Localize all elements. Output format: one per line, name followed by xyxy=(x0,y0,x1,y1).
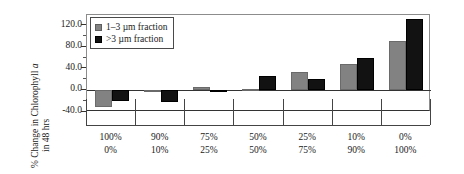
x-axis-separator xyxy=(184,99,185,125)
x-axis-separator xyxy=(135,99,136,125)
x-axis-label-top: 90% xyxy=(135,131,184,144)
x-axis-label-bottom: 25% xyxy=(184,144,233,157)
y-axis-tick-label: -40.0 xyxy=(34,106,82,116)
x-axis-group-label: 50%50% xyxy=(233,131,282,157)
y-axis-tick-label: 120.0 xyxy=(34,20,82,30)
bar xyxy=(308,79,325,90)
x-axis-group-label: 75%25% xyxy=(184,131,233,157)
x-axis-label-top: 50% xyxy=(233,131,282,144)
x-axis-label-top: 75% xyxy=(184,131,233,144)
x-axis-separator xyxy=(283,99,284,125)
legend-item-gt3um: >3 µm fraction xyxy=(95,33,167,45)
x-axis-label-top: 25% xyxy=(283,131,332,144)
legend-swatch-icon-gt3um xyxy=(95,36,102,43)
chart-figure: % Change in Chlorophyll a in 48 hrs -40.… xyxy=(0,0,464,174)
legend-label-gt3um: >3 µm fraction xyxy=(106,33,163,45)
y-axis-tick-label: 0.0 xyxy=(34,84,82,94)
y-axis-tick-label: 80.0 xyxy=(34,41,82,51)
y-axis-title-line1: % Change in Chlorophyll xyxy=(30,68,40,168)
x-axis-separator xyxy=(233,99,234,125)
bar xyxy=(340,64,357,91)
x-axis-label-bottom: 75% xyxy=(283,144,332,157)
x-axis-label-bottom: 90% xyxy=(332,144,381,157)
legend-label-1-3um: 1–3 µm fraction xyxy=(106,21,167,33)
bar xyxy=(259,76,276,91)
bar xyxy=(144,90,161,92)
x-axis-label-top: 10% xyxy=(332,131,381,144)
x-axis-label-top: 0% xyxy=(381,131,430,144)
legend-item-1-3um: 1–3 µm fraction xyxy=(95,21,167,33)
bar xyxy=(406,19,423,91)
bar xyxy=(389,41,406,91)
bar xyxy=(291,72,308,91)
x-axis-label-bottom: 0% xyxy=(86,144,135,157)
x-axis-separator xyxy=(86,99,87,125)
legend-swatch-icon-1-3um xyxy=(95,24,102,31)
bar xyxy=(112,90,129,101)
x-axis-label-bottom: 50% xyxy=(233,144,282,157)
x-axis-separator xyxy=(332,99,333,125)
bar xyxy=(357,58,374,91)
bar xyxy=(210,90,227,92)
x-axis-separator xyxy=(381,99,382,125)
x-axis-group-label: 100%0% xyxy=(86,131,135,157)
y-axis-tick-label: 40.0 xyxy=(34,63,82,73)
chart-legend: 1–3 µm fraction >3 µm fraction xyxy=(90,17,174,49)
x-axis-group-label: 90%10% xyxy=(135,131,184,157)
x-axis-group-label: 10%90% xyxy=(332,131,381,157)
bar xyxy=(242,89,259,91)
x-axis-label-bottom: 10% xyxy=(135,144,184,157)
bar xyxy=(95,90,112,106)
x-axis-label-bottom: 100% xyxy=(381,144,430,157)
x-axis-group-label: 25%75% xyxy=(283,131,332,157)
x-axis-band-rule xyxy=(86,125,430,126)
y-axis-title: % Change in Chlorophyll a in 48 hrs xyxy=(0,0,36,174)
bar xyxy=(161,90,178,102)
x-axis-label-top: 100% xyxy=(86,131,135,144)
bar xyxy=(193,87,210,91)
x-axis-separator xyxy=(430,99,431,125)
x-axis-group-label: 0%100% xyxy=(381,131,430,157)
